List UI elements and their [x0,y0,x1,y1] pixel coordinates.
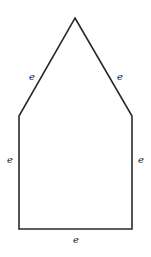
edge-label-upper-left: e [29,71,35,82]
edge-label-upper-right: e [117,71,123,82]
pentagon-outline [19,18,132,229]
edge-label-bottom: e [73,234,79,245]
house-pentagon-diagram: e e e e e [0,0,151,257]
edge-label-left: e [7,154,13,165]
edge-label-right: e [138,154,144,165]
